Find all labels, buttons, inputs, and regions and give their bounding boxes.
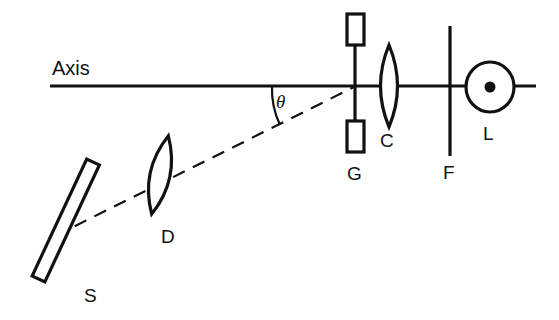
dashed-ray-line (55, 87, 354, 236)
source-label: S (84, 285, 97, 306)
grating-shape (347, 14, 364, 152)
grating-jaw-top (347, 14, 364, 45)
camera-lens-shape (381, 45, 398, 127)
optics-diagram: Axis θ S D G C F L (0, 0, 559, 320)
detector-label: L (483, 123, 494, 144)
collimator-label: D (161, 226, 175, 247)
theta-label: θ (276, 91, 285, 112)
optics-diagram-canvas: Axis θ S D G C F L (0, 0, 559, 320)
source-slit-shape (32, 159, 99, 282)
grating-jaw-bottom (347, 121, 364, 152)
collimator-lens-shape (142, 134, 178, 216)
camera-lens-label: C (380, 130, 394, 151)
detector-shape (466, 62, 514, 112)
filter-label: F (443, 162, 455, 183)
detector-center-dot (485, 82, 496, 93)
axis-label: Axis (52, 57, 90, 79)
grating-label: G (347, 163, 362, 184)
